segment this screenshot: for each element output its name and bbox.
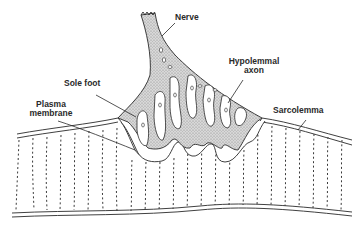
nerve-leader-line xyxy=(162,23,175,36)
nerve-terminal xyxy=(118,12,262,150)
sarcolemma-leader-line xyxy=(298,120,306,130)
label-plasma-membrane-line2: membrane xyxy=(24,109,78,118)
label-plasma-membrane: Plasma membrane xyxy=(24,100,78,118)
label-hypolemmal-axon: Hypolemmal axon xyxy=(226,57,282,75)
label-nerve: Nerve xyxy=(175,13,199,22)
hypolemmal-axon-leader-line xyxy=(228,80,243,103)
neuromuscular-junction-diagram: Nerve Hypolemmal axon Sole foot Plasma m… xyxy=(0,0,363,228)
label-sarcolemma: Sarcolemma xyxy=(273,106,324,115)
label-hypolemmal-axon-line2: axon xyxy=(226,66,282,75)
label-sole-foot: Sole foot xyxy=(64,79,100,88)
